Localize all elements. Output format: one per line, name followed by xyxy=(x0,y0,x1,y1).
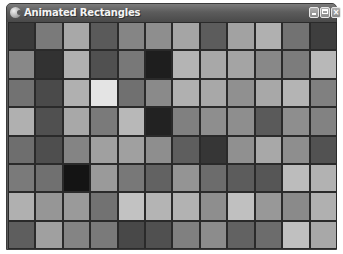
grid-rectangle xyxy=(63,22,90,50)
grid-rectangle xyxy=(200,136,227,164)
grid-rectangle xyxy=(172,107,199,135)
grid-rectangle xyxy=(35,22,62,50)
grid-rectangle xyxy=(63,107,90,135)
title-bar[interactable]: Animated Rectangles × xyxy=(7,4,336,22)
grid-rectangle xyxy=(8,22,35,50)
grid-rectangle xyxy=(118,50,145,78)
grid-rectangle xyxy=(118,221,145,249)
grid-rectangle xyxy=(145,22,172,50)
window-title: Animated Rectangles xyxy=(24,6,140,20)
grid-rectangle xyxy=(310,221,337,249)
grid-rectangle xyxy=(200,192,227,220)
grid-rectangle xyxy=(255,221,282,249)
grid-rectangle xyxy=(145,136,172,164)
grid-rectangle xyxy=(8,192,35,220)
minimize-button[interactable] xyxy=(309,7,319,18)
grid-rectangle xyxy=(172,22,199,50)
grid-rectangle xyxy=(255,136,282,164)
grid-rectangle xyxy=(310,22,337,50)
grid-rectangle xyxy=(90,221,117,249)
grid-rectangle xyxy=(8,79,35,107)
grid-rectangle xyxy=(8,221,35,249)
grid-rectangle xyxy=(145,164,172,192)
grid-rectangle xyxy=(63,164,90,192)
grid-rectangle xyxy=(90,192,117,220)
grid-rectangle xyxy=(227,164,254,192)
minimize-icon xyxy=(312,13,316,15)
grid-rectangle xyxy=(255,107,282,135)
grid-rectangle xyxy=(63,221,90,249)
grid-rectangle xyxy=(200,50,227,78)
grid-rectangle xyxy=(255,79,282,107)
grid-rectangle xyxy=(35,136,62,164)
grid-rectangle xyxy=(8,50,35,78)
grid-rectangle xyxy=(255,50,282,78)
app-icon[interactable] xyxy=(10,7,21,18)
grid-rectangle xyxy=(227,22,254,50)
grid-rectangle xyxy=(145,192,172,220)
grid-rectangle xyxy=(255,164,282,192)
grid-rectangle xyxy=(282,221,309,249)
grid-rectangle xyxy=(200,22,227,50)
grid-rectangle xyxy=(227,107,254,135)
grid-rectangle xyxy=(282,50,309,78)
grid-rectangle xyxy=(8,107,35,135)
grid-rectangle xyxy=(282,79,309,107)
grid-rectangle xyxy=(118,192,145,220)
grid-rectangle xyxy=(282,164,309,192)
grid-rectangle xyxy=(118,79,145,107)
grid-rectangle xyxy=(90,50,117,78)
grid-rectangle xyxy=(35,79,62,107)
grid-rectangle xyxy=(282,192,309,220)
grid-rectangle xyxy=(63,50,90,78)
grid-rectangle xyxy=(310,164,337,192)
grid-rectangle xyxy=(227,136,254,164)
grid-rectangle xyxy=(255,22,282,50)
grid-rectangle xyxy=(310,136,337,164)
grid-rectangle xyxy=(200,107,227,135)
grid-rectangle xyxy=(282,136,309,164)
grid-rectangle xyxy=(145,221,172,249)
grid-rectangle xyxy=(8,136,35,164)
grid-rectangle xyxy=(118,107,145,135)
grid-rectangle xyxy=(35,107,62,135)
grid-rectangle xyxy=(227,50,254,78)
grid-rectangle xyxy=(172,164,199,192)
grid-rectangle xyxy=(145,79,172,107)
grid-rectangle xyxy=(90,22,117,50)
rectangle-grid xyxy=(8,22,337,249)
grid-rectangle xyxy=(63,79,90,107)
maximize-button[interactable] xyxy=(320,7,330,18)
close-button[interactable]: × xyxy=(331,7,341,18)
grid-rectangle xyxy=(310,192,337,220)
grid-rectangle xyxy=(118,164,145,192)
grid-rectangle xyxy=(227,192,254,220)
grid-rectangle xyxy=(172,192,199,220)
close-icon: × xyxy=(333,8,340,17)
grid-rectangle xyxy=(90,79,117,107)
grid-rectangle xyxy=(63,136,90,164)
grid-rectangle xyxy=(200,221,227,249)
grid-rectangle xyxy=(200,164,227,192)
grid-rectangle xyxy=(200,79,227,107)
grid-rectangle xyxy=(145,107,172,135)
grid-rectangle xyxy=(310,79,337,107)
grid-rectangle xyxy=(35,221,62,249)
grid-rectangle xyxy=(145,50,172,78)
grid-rectangle xyxy=(35,50,62,78)
grid-rectangle xyxy=(90,107,117,135)
grid-rectangle xyxy=(255,192,282,220)
grid-rectangle xyxy=(8,164,35,192)
grid-rectangle xyxy=(118,136,145,164)
grid-rectangle xyxy=(90,136,117,164)
grid-rectangle xyxy=(172,50,199,78)
grid-rectangle xyxy=(227,221,254,249)
grid-rectangle xyxy=(35,164,62,192)
grid-rectangle xyxy=(310,107,337,135)
grid-rectangle xyxy=(63,192,90,220)
grid-rectangle xyxy=(282,22,309,50)
grid-rectangle xyxy=(172,79,199,107)
grid-rectangle xyxy=(310,50,337,78)
grid-rectangle xyxy=(227,79,254,107)
grid-rectangle xyxy=(172,221,199,249)
